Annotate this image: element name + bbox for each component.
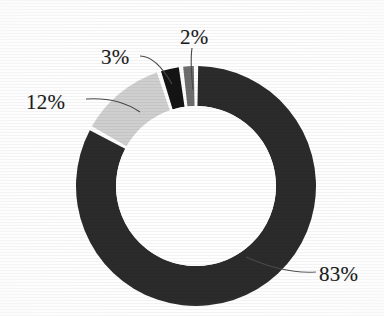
slice-label-3-percent: 3% [101, 45, 129, 70]
slice-label-2-percent: 2% [180, 25, 208, 50]
donut-chart-figure: 2% 3% 12% 83% [0, 0, 384, 316]
donut-hole [116, 106, 276, 266]
slice-label-12-percent: 12% [26, 90, 65, 115]
slice-label-83-percent: 83% [319, 262, 358, 287]
